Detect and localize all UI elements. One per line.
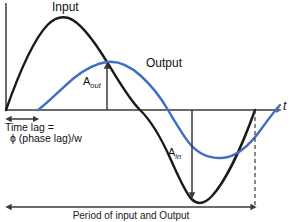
time-lag-line-2: ϕ (phase lag)/w [5,133,82,144]
output-curve-label: Output [146,57,182,70]
period-caption: Period of input and Output [0,211,262,222]
phase-lag-figure: Input Output t Aout Ain Time lag = ϕ (ph… [0,0,293,222]
t-axis-label: t [283,100,286,113]
amp-out-label: Aout [83,76,101,90]
amp-in-label: Ain [168,147,181,161]
time-lag-label: Time lag = ϕ (phase lag)/w [5,122,82,144]
figure-canvas [0,0,293,222]
input-curve-label: Input [52,1,79,14]
amp-in-label-sub: in [175,152,181,161]
amp-out-label-sub: out [90,81,100,90]
